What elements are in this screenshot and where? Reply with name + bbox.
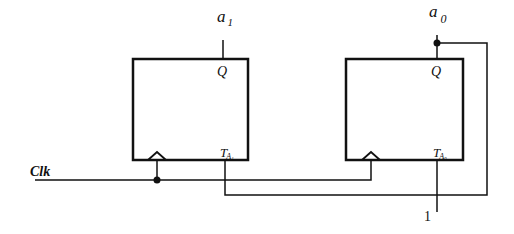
label-q-ff1: Q	[217, 64, 227, 79]
label-a1: a1	[217, 7, 233, 28]
wire-clock	[35, 160, 371, 180]
flip-flop-a1	[133, 59, 248, 160]
label-TA0: TA₀	[433, 145, 447, 161]
flip-flop-a0	[346, 59, 463, 160]
circuit-diagram: a1 a0 Q Q TA₁ TA₀ Clk 1	[0, 0, 514, 234]
junction-dot-clock	[154, 177, 161, 184]
wire-a0-to-TA1	[225, 43, 487, 195]
label-clk: Clk	[30, 164, 50, 179]
label-TA1: TA₁	[220, 145, 234, 161]
label-constant-1: 1	[424, 209, 431, 224]
label-a0: a0	[429, 2, 447, 26]
label-q-ff0: Q	[431, 64, 441, 79]
